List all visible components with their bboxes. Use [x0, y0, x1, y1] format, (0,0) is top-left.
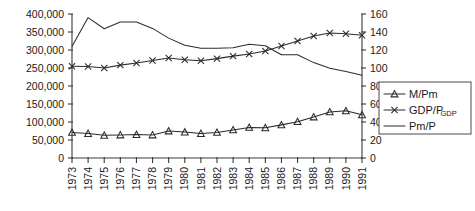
y-axis-right-tick-label: 140 [370, 26, 388, 38]
series-m-pm [69, 107, 366, 138]
x-axis-tick-label: 1985 [259, 167, 271, 191]
y-axis-right-tick-label: 120 [370, 44, 388, 56]
data-point [294, 38, 300, 44]
y-axis-left-tick-label: 50,000 [32, 134, 64, 146]
y-axis-left-tick-label: 0 [58, 152, 64, 164]
x-axis-tick-label: 1976 [114, 167, 126, 191]
x-axis-tick-label: 1991 [356, 167, 368, 191]
x-axis-tick-label: 1977 [130, 167, 142, 191]
x-axis-tick-label: 1981 [195, 167, 207, 191]
x-axis-tick-label: 1987 [291, 167, 303, 191]
x-axis-tick-label: 1982 [211, 167, 223, 191]
legend: M/PmGDP/PGDPPm/P [379, 82, 471, 134]
x-axis-tick-label: 1990 [340, 167, 352, 191]
y-axis-left-tick-label: 150,000 [26, 98, 64, 110]
y-axis-right-tick-label: 160 [370, 8, 388, 20]
series-line [72, 33, 362, 68]
x-axis-tick-label: 1986 [275, 167, 287, 191]
x-axis-tick-label: 1984 [243, 167, 255, 191]
y-axis-left-tick-label: 400,000 [26, 8, 64, 20]
y-axis-left-tick-label: 250,000 [26, 62, 64, 74]
x-axis-tick-label: 1974 [82, 167, 94, 191]
series-pm-p [72, 18, 362, 76]
series-line [72, 18, 362, 76]
data-point [278, 43, 284, 49]
y-axis-right-tick-label: 0 [370, 152, 376, 164]
y-axis-left-tick-label: 350,000 [26, 26, 64, 38]
y-axis-left-tick-label: 200,000 [26, 80, 64, 92]
x-axis-tick-label: 1988 [307, 167, 319, 191]
y-axis-left-tick-label: 100,000 [26, 116, 64, 128]
x-axis-tick-label: 1978 [146, 167, 158, 191]
y-axis-left-tick-label: 300,000 [26, 44, 64, 56]
chart-container: 050,000100,000150,000200,000250,000300,0… [0, 0, 475, 211]
x-axis-tick-label: 1989 [323, 167, 335, 191]
legend-label-subscript: GDP [441, 109, 457, 118]
series-line [72, 111, 362, 135]
x-axis-tick-label: 1979 [162, 167, 174, 191]
x-axis-tick-label: 1980 [178, 167, 190, 191]
y-axis-right-tick-label: 20 [370, 134, 382, 146]
x-axis-tick-label: 1973 [66, 167, 78, 191]
x-axis-tick-label: 1975 [98, 167, 110, 191]
legend-label: GDP/P [409, 104, 443, 116]
line-chart: 050,000100,000150,000200,000250,000300,0… [0, 0, 475, 211]
legend-label: M/Pm [409, 88, 438, 100]
y-axis-right-tick-label: 100 [370, 62, 388, 74]
x-axis-tick-label: 1983 [227, 167, 239, 191]
legend-label: Pm/P [409, 120, 436, 132]
